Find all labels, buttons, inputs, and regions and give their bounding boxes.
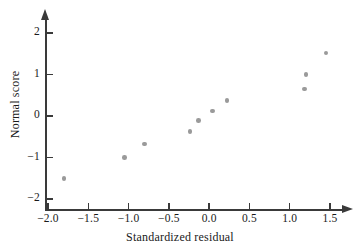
data-point	[122, 155, 127, 160]
x-tick-label: −1.0	[107, 212, 151, 224]
x-axis-title: Standardized residual	[0, 230, 360, 245]
data-point	[302, 87, 307, 92]
data-point	[324, 51, 329, 56]
y-axis-arrow-icon	[41, 9, 49, 20]
x-tick-label: 1.5	[308, 212, 352, 224]
data-point	[225, 98, 230, 103]
x-tick	[249, 203, 250, 210]
x-tick-label: 0.5	[227, 212, 271, 224]
y-tick	[46, 115, 53, 116]
x-tick-label: 1.0	[268, 212, 312, 224]
x-tick-label: −1.5	[66, 212, 110, 224]
x-tick	[128, 203, 129, 210]
x-tick	[289, 203, 290, 210]
y-tick-label: −2	[16, 191, 40, 203]
x-tick	[88, 203, 89, 210]
x-tick-label: 0.0	[187, 212, 231, 224]
data-point	[188, 129, 193, 134]
y-tick	[46, 157, 53, 158]
data-point	[196, 118, 201, 123]
y-tick	[46, 198, 53, 199]
y-axis-title: Normal score	[8, 60, 23, 150]
x-tick	[168, 203, 169, 210]
x-tick-label: −0.5	[147, 212, 191, 224]
data-point	[142, 142, 147, 147]
data-point	[62, 176, 67, 181]
y-tick	[46, 32, 53, 33]
x-tick	[329, 203, 330, 210]
y-axis-line	[45, 18, 47, 210]
y-tick-label: −1	[16, 150, 40, 162]
y-tick	[46, 74, 53, 75]
x-tick-label: −2.0	[26, 212, 70, 224]
normal-probability-plot: −2.0−1.5−1.0−0.50.00.51.01.5 210−1−2 Sta…	[0, 0, 360, 251]
x-tick	[47, 203, 48, 210]
data-point	[210, 109, 215, 114]
y-tick-label: 2	[16, 25, 40, 37]
x-tick	[208, 203, 209, 210]
x-axis-line	[45, 209, 344, 211]
data-point	[304, 72, 309, 77]
